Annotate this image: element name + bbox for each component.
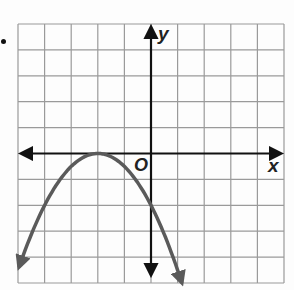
origin-label: O: [134, 155, 148, 176]
axes: [21, 27, 281, 275]
coordinate-plane: [0, 0, 294, 290]
x-axis-label: x: [268, 155, 279, 177]
y-axis-label: y: [158, 23, 169, 45]
parabola-curve: [19, 154, 181, 283]
